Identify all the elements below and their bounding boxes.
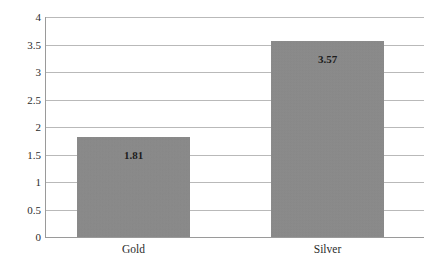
y-axis-tick-label: 2.5: [5, 94, 41, 105]
y-axis-tick-label: 1.5: [5, 149, 41, 160]
y-axis-tick-label: 0.5: [5, 204, 41, 215]
x-axis-category-label: Gold: [77, 244, 190, 256]
y-axis-tick-label: 0: [5, 232, 41, 243]
bar[interactable]: 1.81: [77, 137, 190, 237]
y-axis-tick-labels: 00.511.522.533.54: [0, 0, 41, 271]
gridline: [45, 237, 424, 238]
y-axis-tick-label: 3.5: [5, 39, 41, 50]
bar-value-label: 1.81: [77, 150, 190, 161]
bar-chart: 1.813.57 00.511.522.533.54 GoldSilver: [0, 0, 440, 271]
bar[interactable]: 3.57: [271, 41, 384, 237]
x-axis-category-label: Silver: [271, 244, 384, 256]
y-axis-tick-label: 3: [5, 67, 41, 78]
gridline: [45, 17, 424, 18]
y-axis-tick-label: 4: [5, 12, 41, 23]
y-axis-tick-label: 2: [5, 122, 41, 133]
y-axis-tick-label: 1: [5, 177, 41, 188]
bar-value-label: 3.57: [271, 54, 384, 65]
plot-area: 1.813.57: [45, 17, 424, 237]
y-axis-line: [45, 17, 46, 238]
